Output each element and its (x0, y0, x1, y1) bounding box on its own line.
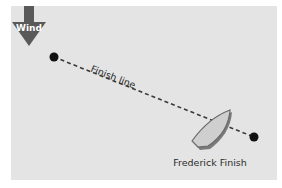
pin-end-mark (50, 53, 59, 62)
boat-label: Frederick Finish (173, 157, 247, 168)
diagram-background (11, 6, 277, 180)
finish-line-diagram: Wind Finish line Frederick Finish (0, 0, 282, 188)
wind-label: Wind (16, 23, 42, 33)
committee-boat-mark (250, 133, 259, 142)
